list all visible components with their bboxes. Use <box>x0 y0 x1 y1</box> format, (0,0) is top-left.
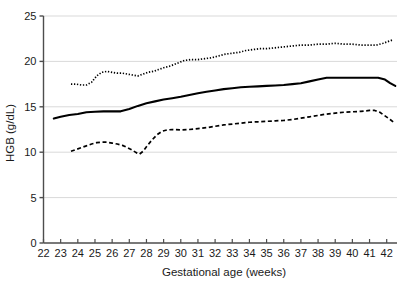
y-tick-label: 20 <box>24 55 36 67</box>
x-tick-label: 25 <box>89 247 101 259</box>
x-tick-label: 24 <box>72 247 84 259</box>
x-tick-label: 32 <box>209 247 221 259</box>
x-tick-label: 40 <box>346 247 358 259</box>
x-tick-label: 30 <box>175 247 187 259</box>
y-tick-label: 10 <box>24 146 36 158</box>
chart-container: 0510152025222324252627282930313233343536… <box>0 0 407 283</box>
x-tick-label: 36 <box>278 247 290 259</box>
y-tick-label: 5 <box>30 192 36 204</box>
x-tick-label: 33 <box>226 247 238 259</box>
x-tick-label: 23 <box>55 247 67 259</box>
x-axis-title: Gestational age (weeks) <box>162 266 286 278</box>
x-tick-label: 35 <box>260 247 272 259</box>
x-tick-label: 42 <box>381 247 393 259</box>
x-tick-label: 29 <box>157 247 169 259</box>
x-tick-label: 31 <box>192 247 204 259</box>
x-tick-label: 26 <box>106 247 118 259</box>
y-axis-title: HGB (g/dL) <box>4 104 16 162</box>
x-tick-label: 28 <box>140 247 152 259</box>
hgb-gestational-age-line-chart: 0510152025222324252627282930313233343536… <box>0 0 407 283</box>
x-tick-label: 38 <box>312 247 324 259</box>
y-tick-label: 25 <box>24 10 36 22</box>
y-tick-label: 0 <box>30 237 36 249</box>
x-tick-label: 37 <box>295 247 307 259</box>
x-tick-label: 22 <box>37 247 49 259</box>
y-tick-label: 15 <box>24 101 36 113</box>
x-tick-label: 27 <box>123 247 135 259</box>
x-tick-label: 39 <box>329 247 341 259</box>
x-tick-label: 34 <box>243 247 255 259</box>
x-tick-label: 41 <box>363 247 375 259</box>
